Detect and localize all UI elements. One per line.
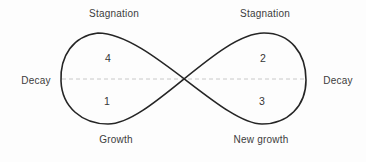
label-stagnation-left: Stagnation xyxy=(89,9,139,19)
phase-number-3: 3 xyxy=(259,96,265,107)
infinity-lifecycle-diagram: Stagnation Stagnation Decay Decay Growth… xyxy=(0,0,366,162)
label-stagnation-right: Stagnation xyxy=(240,9,290,19)
label-new-growth: New growth xyxy=(234,135,289,145)
label-decay-right: Decay xyxy=(323,76,352,86)
label-growth: Growth xyxy=(99,135,132,145)
phase-number-1: 1 xyxy=(104,96,110,107)
phase-number-4: 4 xyxy=(105,53,111,64)
diagram-canvas xyxy=(0,0,366,162)
phase-number-2: 2 xyxy=(260,53,266,64)
label-decay-left: Decay xyxy=(21,76,50,86)
